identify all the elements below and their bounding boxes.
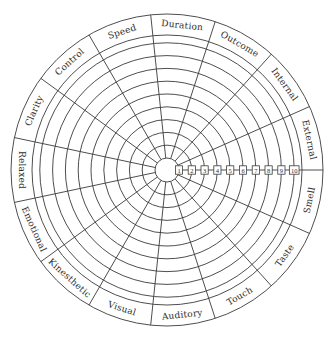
scale-number: 10: [291, 167, 298, 174]
segment-label-smell: Smell: [302, 186, 317, 214]
scale-box-10: 10: [289, 166, 299, 174]
scale-number: 9: [280, 167, 283, 174]
scale-box-9: 9: [278, 166, 285, 174]
segment-label-visual: Visual: [106, 299, 138, 318]
segment-divider: [171, 181, 215, 318]
scale-number: 8: [267, 167, 270, 174]
scale-box-6: 6: [239, 166, 246, 174]
scale-box-7: 7: [252, 166, 259, 174]
segment-label-speed: Speed: [107, 22, 138, 41]
scale-number: 2: [190, 167, 193, 174]
scale-box-3: 3: [201, 166, 208, 174]
segment-divider: [89, 35, 161, 160]
wheel-diagram: ExternalInternalOutcomeDurationSpeedCont…: [0, 0, 334, 341]
scale-box-5: 5: [227, 166, 234, 174]
segment-divider: [89, 180, 161, 305]
scale-number: 1: [177, 167, 180, 174]
segment-label-outcome: Outcome: [219, 29, 261, 59]
segment-label-external: External: [300, 119, 318, 161]
segment-label-relaxed: Relaxed: [17, 151, 27, 189]
segment-label-taste: Taste: [273, 242, 296, 268]
segment-divider: [151, 15, 166, 158]
segment-label-emotional: Emotional: [20, 205, 49, 253]
scale-number: 5: [229, 167, 232, 174]
scale-number: 3: [203, 167, 206, 174]
segment-divider: [41, 177, 157, 262]
segment-label-touch: Touch: [225, 285, 255, 308]
scale-box-8: 8: [265, 166, 272, 174]
segment-label-auditory: Auditory: [160, 308, 203, 322]
scale-box-4: 4: [214, 166, 221, 174]
segment-label-internal: Internal: [269, 66, 300, 103]
segment-divider: [41, 78, 157, 163]
segment-divider: [151, 182, 166, 325]
scale-box-1: 1: [175, 166, 182, 174]
segment-label-clarity: Clarity: [23, 93, 46, 127]
segment-label-duration: Duration: [161, 18, 204, 32]
wheel-canvas: ExternalInternalOutcomeDurationSpeedCont…: [0, 0, 334, 341]
scale-box-2: 2: [188, 166, 195, 174]
segment-label-control: Control: [53, 46, 86, 77]
segment-divider: [171, 22, 215, 159]
